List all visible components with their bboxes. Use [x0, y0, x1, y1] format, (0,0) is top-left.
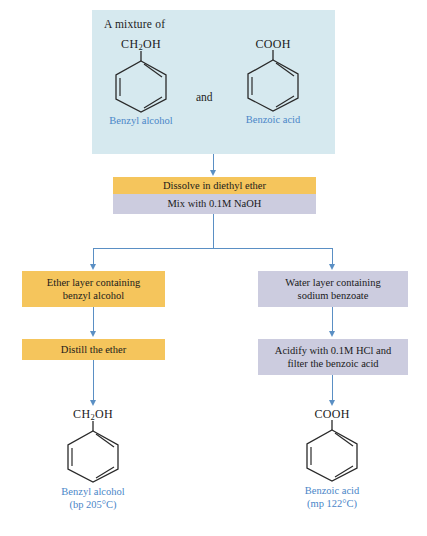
arrowhead-icon — [329, 400, 335, 406]
mixture-benzoic-acid-label: Benzoic acid — [232, 114, 314, 127]
product-benzyl-alcohol-structure: CH2OH Benzyl alcohol (bp 205°C) — [52, 408, 134, 512]
product-benzoic-acid-structure: COOH Benzoic acid (mp 122°C) — [291, 408, 373, 511]
benzene-ring-icon — [291, 420, 373, 482]
product-benzoic-acid-formula: COOH — [291, 408, 373, 420]
product-benzoic-acid-property: (mp 122°C) — [291, 498, 373, 511]
arrowhead-icon — [210, 170, 216, 176]
arrowhead-icon — [90, 331, 96, 337]
water-layer-line1: Water layer containing — [285, 276, 380, 289]
product-benzyl-alcohol-formula: CH2OH — [52, 408, 134, 421]
benzoic-acid-formula: COOH — [232, 38, 314, 50]
step-distill-label: Distill the ether — [61, 343, 126, 356]
step-mix-box[interactable]: Mix with 0.1M NaOH — [113, 194, 316, 214]
connector-split-horizontal — [93, 248, 333, 249]
arrowhead-icon — [329, 264, 335, 270]
product-benzyl-alcohol-label: Benzyl alcohol — [52, 486, 134, 499]
benzene-ring-icon — [52, 421, 134, 483]
water-layer-line2: sodium benzoate — [298, 289, 369, 302]
product-benzoic-acid-label: Benzoic acid — [291, 485, 373, 498]
ether-layer-box[interactable]: Ether layer containing benzyl alcohol — [22, 271, 165, 307]
step-dissolve-label: Dissolve in diethyl ether — [163, 179, 266, 192]
step-dissolve-box[interactable]: Dissolve in diethyl ether — [113, 177, 316, 194]
connector-acidify-to-product — [332, 375, 333, 402]
arrowhead-icon — [329, 331, 335, 337]
water-layer-box[interactable]: Water layer containing sodium benzoate — [258, 271, 408, 307]
connector-ether-to-distill — [93, 307, 94, 333]
benzyl-alcohol-formula: CH2OH — [100, 38, 182, 51]
conjunction-and: and — [196, 91, 213, 103]
benzene-ring-icon — [232, 50, 314, 112]
mixture-caption: A mixture of — [104, 18, 165, 30]
connector-mix-to-split — [213, 214, 214, 249]
product-benzyl-alcohol-property: (bp 205°C) — [52, 499, 134, 512]
ether-layer-line2: benzyl alcohol — [63, 289, 125, 302]
connector-water-to-acidify — [332, 307, 333, 333]
step-distill-box[interactable]: Distill the ether — [22, 339, 165, 360]
mixture-benzoic-acid-structure: COOH Benzoic acid — [232, 38, 314, 127]
flowchart-canvas: A mixture of CH2OH Benzyl alcohol and CO… — [0, 0, 427, 536]
ether-layer-line1: Ether layer containing — [47, 276, 140, 289]
benzene-ring-icon — [100, 51, 182, 113]
connector-distill-to-product — [93, 360, 94, 402]
arrowhead-icon — [90, 400, 96, 406]
arrowhead-icon — [90, 264, 96, 270]
step-acidify-box[interactable]: Acidify with 0.1M HCl and filter the ben… — [258, 339, 408, 375]
step-acidify-line1: Acidify with 0.1M HCl and — [275, 344, 391, 357]
mixture-benzyl-alcohol-structure: CH2OH Benzyl alcohol — [100, 38, 182, 128]
mixture-benzyl-alcohol-label: Benzyl alcohol — [100, 115, 182, 128]
step-acidify-line2: filter the benzoic acid — [287, 357, 378, 370]
step-mix-label: Mix with 0.1M NaOH — [168, 197, 262, 210]
